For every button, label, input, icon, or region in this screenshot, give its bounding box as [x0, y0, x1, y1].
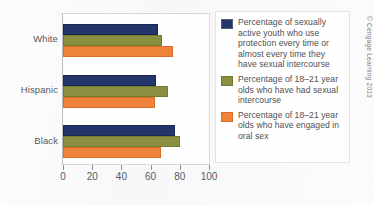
bar-white-series-1 — [63, 24, 158, 35]
orange-swatch-icon — [221, 112, 233, 122]
plot-area — [62, 13, 210, 165]
legend-entry-orange: Percentage of 18–21 year olds who have e… — [221, 110, 345, 142]
legend-entry-navy: Percentage of sexually active youth who … — [221, 17, 345, 70]
category-axis-labels: White Hispanic Black — [0, 13, 58, 165]
legend-label-olive: Percentage of 18–21 year olds who have h… — [238, 74, 345, 106]
x-tick-label-40: 40 — [116, 171, 127, 182]
chart-figure: White Hispanic Black 020406080100 Percen… — [0, 0, 374, 205]
olive-swatch-icon — [221, 76, 233, 86]
x-tick-80 — [180, 165, 181, 170]
bar-black-series-3 — [63, 147, 161, 158]
bar-black-series-2 — [63, 136, 180, 147]
legend-label-navy: Percentage of sexually active youth who … — [238, 17, 345, 70]
bar-hispanic-series-2 — [63, 86, 168, 97]
x-tick-label-60: 60 — [145, 171, 156, 182]
x-tick-label-100: 100 — [201, 171, 218, 182]
category-label-white: White — [2, 33, 58, 44]
x-tick-label-20: 20 — [87, 171, 98, 182]
bar-hispanic-series-1 — [63, 75, 156, 86]
copyright-credit: © Cengage Learning 2013 — [366, 16, 373, 98]
bar-hispanic-series-3 — [63, 97, 155, 108]
category-label-black: Black — [2, 135, 58, 146]
bar-black-series-1 — [63, 125, 175, 136]
navy-swatch-icon — [221, 19, 233, 29]
bar-white-series-3 — [63, 46, 173, 57]
x-tick-label-0: 0 — [60, 171, 66, 182]
chart-legend: Percentage of sexually active youth who … — [215, 11, 350, 163]
x-tick-20 — [92, 165, 93, 170]
x-tick-100 — [209, 165, 210, 170]
legend-label-orange: Percentage of 18–21 year olds who have e… — [238, 110, 345, 142]
x-axis-tick-labels: 020406080100 — [0, 171, 280, 187]
x-tick-label-80: 80 — [174, 171, 185, 182]
category-label-hispanic: Hispanic — [2, 84, 58, 95]
x-tick-40 — [121, 165, 122, 170]
x-tick-60 — [151, 165, 152, 170]
bar-white-series-2 — [63, 35, 162, 46]
legend-entry-olive: Percentage of 18–21 year olds who have h… — [221, 74, 345, 106]
x-tick-0 — [63, 165, 64, 170]
